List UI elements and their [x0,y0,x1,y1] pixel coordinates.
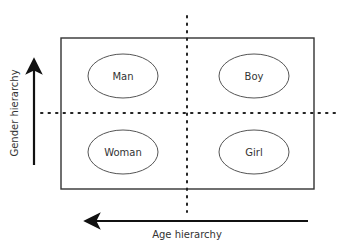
quadrant-label: Girl [245,147,262,158]
quadrant-label: Man [112,71,133,82]
gender-axis-label: Gender hierarchy [9,69,20,156]
quadrant-label: Woman [104,147,142,158]
quadrant-boy: Boy [219,54,289,98]
quadrant-label: Boy [245,71,264,82]
quadrant-man: Man [88,54,158,98]
quadrant-woman: Woman [88,130,158,174]
gender-age-hierarchy-diagram: Man Boy Woman Girl Gender hierarchy Age … [0,0,348,249]
age-axis-label: Age hierarchy [152,229,222,240]
quadrant-girl: Girl [219,130,289,174]
